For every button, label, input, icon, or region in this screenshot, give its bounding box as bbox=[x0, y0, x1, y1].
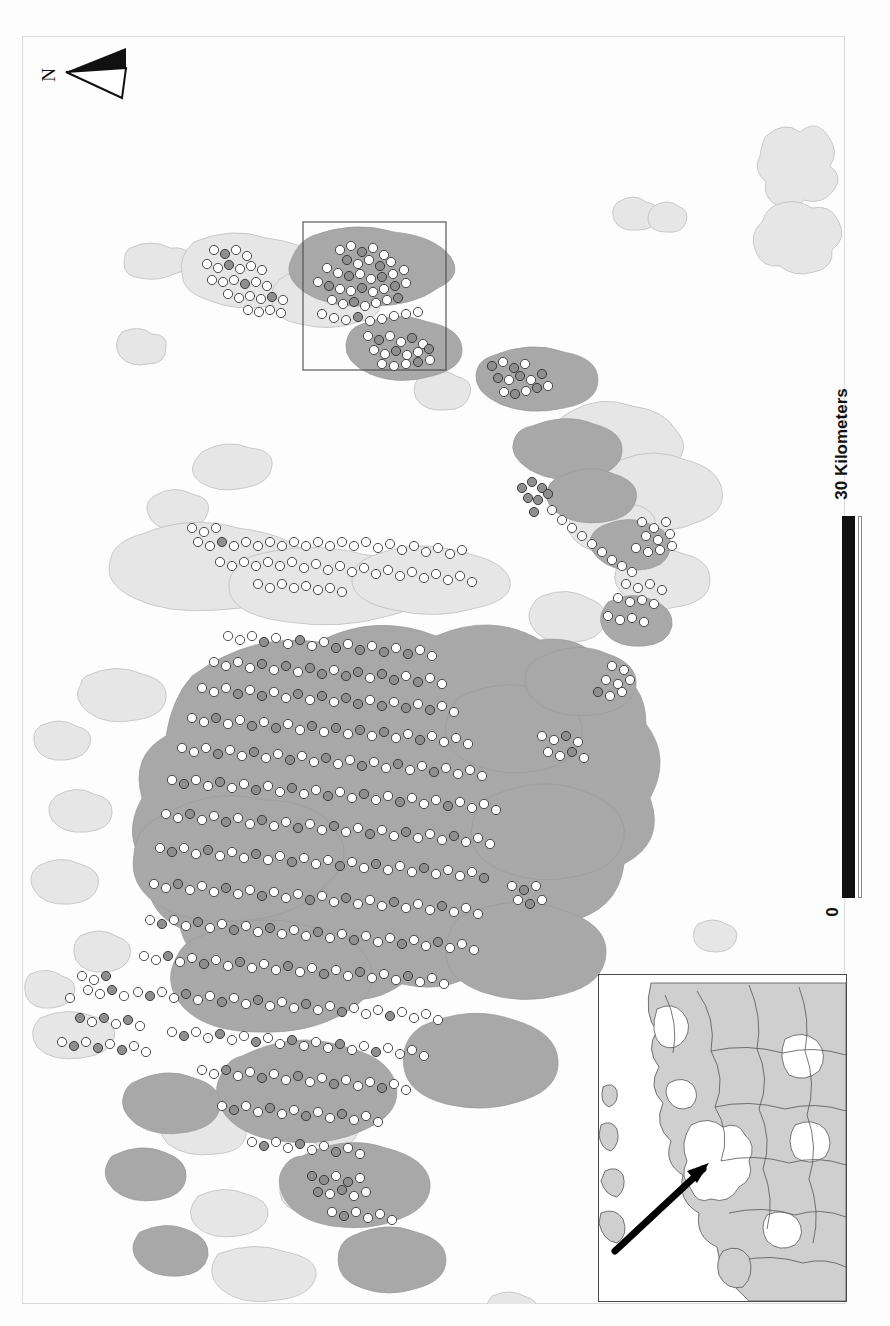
scale-bar-min-label: 0 bbox=[823, 897, 843, 927]
scale-bar-outline bbox=[858, 516, 862, 898]
scale-bar-filled bbox=[842, 516, 855, 898]
locator-inset-svg bbox=[599, 975, 846, 1301]
scale-bar-max-label: 30 Kilometers bbox=[832, 384, 852, 504]
locator-inset-map bbox=[598, 974, 847, 1302]
figure-page: N 30 Kilometers 0 bbox=[0, 0, 890, 1326]
scale-bar: 30 Kilometers 0 bbox=[820, 420, 866, 920]
north-arrow: N bbox=[30, 42, 140, 112]
north-label: N bbox=[38, 68, 60, 82]
